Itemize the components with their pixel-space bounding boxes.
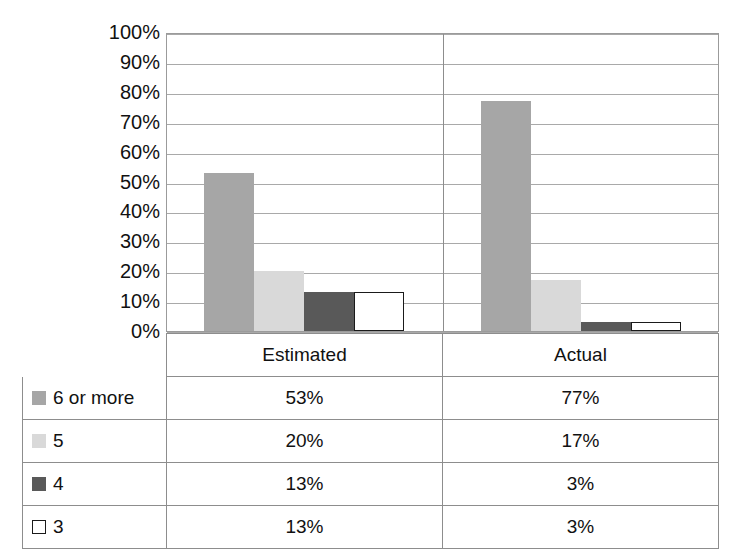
bar (204, 173, 254, 331)
legend-label: 5 (53, 430, 64, 451)
bar (631, 322, 681, 331)
y-axis: 100% 90% 80% 70% 60% 50% 40% 30% 20% 10%… (55, 33, 160, 332)
y-tick-label: 100% (55, 22, 160, 42)
plot-area (166, 33, 719, 332)
legend-cell: 4 (23, 463, 167, 506)
cell-actual: 3% (443, 463, 719, 506)
bar (354, 292, 404, 331)
legend-label: 6 or more (53, 387, 134, 408)
legend-swatch-icon (32, 434, 46, 448)
bar (581, 322, 631, 331)
legend-swatch-icon (32, 477, 46, 491)
bar (254, 271, 304, 331)
cell-estimated: 53% (167, 377, 443, 420)
cell-actual: 17% (443, 420, 719, 463)
y-tick-label: 50% (55, 172, 160, 192)
y-tick-label: 10% (55, 291, 160, 311)
legend-label: 4 (53, 473, 64, 494)
y-tick-label: 20% (55, 261, 160, 281)
bar (304, 292, 354, 331)
table-row: 520%17% (23, 420, 719, 463)
bars-layer (167, 34, 718, 331)
legend-header-cell (23, 334, 167, 377)
y-tick-label: 90% (55, 52, 160, 72)
column-header-estimated: Estimated (167, 334, 443, 377)
table-row: 313%3% (23, 506, 719, 549)
legend-label: 3 (53, 516, 64, 537)
bar (481, 101, 531, 331)
y-tick-label: 60% (55, 142, 160, 162)
cell-actual: 3% (443, 506, 719, 549)
table-header-row: Estimated Actual (23, 334, 719, 377)
data-table: Estimated Actual 6 or more53%77%520%17%4… (22, 333, 719, 549)
legend-cell: 3 (23, 506, 167, 549)
y-tick-label: 30% (55, 231, 160, 251)
cell-estimated: 13% (167, 463, 443, 506)
legend-cell: 5 (23, 420, 167, 463)
cell-estimated: 13% (167, 506, 443, 549)
chart-figure: 100% 90% 80% 70% 60% 50% 40% 30% 20% 10%… (0, 0, 731, 557)
legend-swatch-icon (32, 520, 46, 534)
y-tick-label: 80% (55, 82, 160, 102)
table-row: 6 or more53%77% (23, 377, 719, 420)
bar (531, 280, 581, 331)
y-tick-label: 40% (55, 201, 160, 221)
legend-cell: 6 or more (23, 377, 167, 420)
legend-swatch-icon (32, 391, 46, 405)
column-header-actual: Actual (443, 334, 719, 377)
cell-actual: 77% (443, 377, 719, 420)
cell-estimated: 20% (167, 420, 443, 463)
table-row: 413%3% (23, 463, 719, 506)
y-tick-label: 70% (55, 112, 160, 132)
